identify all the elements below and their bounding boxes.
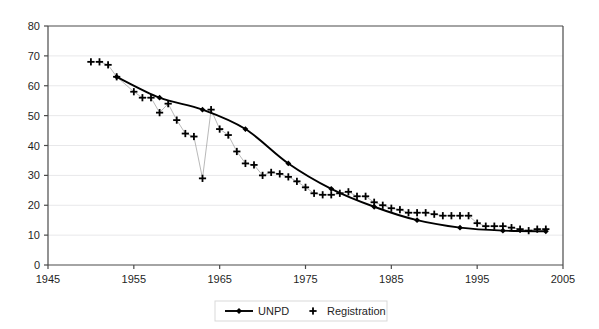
- line-chart: 0102030405060708019451955196519751985199…: [0, 0, 599, 329]
- x-tick-label: 1945: [36, 273, 60, 285]
- y-tick-label: 30: [28, 169, 40, 181]
- legend-label-registration: Registration: [327, 305, 386, 317]
- x-axis-ticks: 1945195519651975198519952005: [36, 265, 575, 285]
- x-tick-label: 1965: [207, 273, 231, 285]
- x-tick-label: 1995: [465, 273, 489, 285]
- y-tick-label: 60: [28, 80, 40, 92]
- y-axis-ticks: 01020304050607080: [28, 20, 48, 271]
- y-tick-label: 10: [28, 229, 40, 241]
- y-tick-label: 50: [28, 110, 40, 122]
- chart-legend: UNPDRegistration: [215, 301, 387, 321]
- x-tick-label: 2005: [551, 273, 575, 285]
- legend-label-unpd: UNPD: [258, 305, 289, 317]
- y-tick-label: 40: [28, 140, 40, 152]
- chart-container: 0102030405060708019451955196519751985199…: [0, 0, 599, 329]
- y-tick-label: 70: [28, 50, 40, 62]
- x-tick-label: 1955: [122, 273, 146, 285]
- y-tick-label: 80: [28, 20, 40, 32]
- y-tick-label: 0: [34, 259, 40, 271]
- x-tick-label: 1975: [293, 273, 317, 285]
- y-tick-label: 20: [28, 199, 40, 211]
- x-tick-label: 1985: [379, 273, 403, 285]
